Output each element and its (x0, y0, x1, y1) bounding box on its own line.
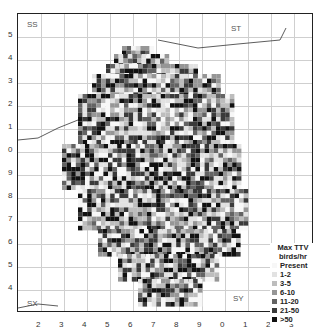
legend-swatch (272, 263, 277, 268)
square-label-ss: SS (27, 20, 38, 29)
y-tick: 3 (8, 76, 12, 85)
y-tick: 0 (8, 145, 12, 154)
legend-item: >50 (272, 315, 316, 324)
legend-swatch (272, 290, 277, 295)
y-tick: 4 (8, 283, 12, 292)
y-tick: 5 (8, 30, 12, 39)
legend: Max TTV birds/hr Present1-23-56-1011-202… (270, 243, 316, 324)
x-tick: 0 (220, 320, 224, 329)
x-tick: 4 (82, 320, 86, 329)
legend-item: 11-20 (272, 297, 316, 306)
x-tick: 1 (243, 320, 247, 329)
legend-item: 3-5 (272, 279, 316, 288)
y-tick: 5 (8, 260, 12, 269)
square-label-sx: SX (27, 299, 38, 308)
legend-swatch (272, 308, 277, 313)
x-tick: 7 (151, 320, 155, 329)
legend-item: Present (272, 261, 316, 270)
x-tick: 8 (174, 320, 178, 329)
y-tick: 9 (8, 168, 12, 177)
tetrad-cells (18, 14, 313, 312)
x-tick: 2 (36, 320, 40, 329)
y-tick: 2 (8, 99, 12, 108)
legend-title: Max TTV birds/hr (270, 243, 316, 261)
distribution-map: SS ST SX SY (17, 13, 313, 312)
legend-swatch (272, 272, 277, 277)
square-label-st: ST (231, 24, 241, 33)
legend-item: 21-50 (272, 306, 316, 315)
legend-swatch (272, 281, 277, 286)
legend-swatch (272, 299, 277, 304)
x-tick: 9 (197, 320, 201, 329)
y-tick: 7 (8, 214, 12, 223)
square-label-sy: SY (233, 294, 244, 303)
legend-item: 6-10 (272, 288, 316, 297)
x-tick: 5 (105, 320, 109, 329)
x-tick: 3 (59, 320, 63, 329)
y-tick: 4 (8, 53, 12, 62)
x-tick: 6 (128, 320, 132, 329)
legend-swatch (272, 317, 277, 322)
y-tick: 1 (8, 122, 12, 131)
y-tick: 8 (8, 191, 12, 200)
y-tick: 6 (8, 237, 12, 246)
legend-item: 1-2 (272, 270, 316, 279)
